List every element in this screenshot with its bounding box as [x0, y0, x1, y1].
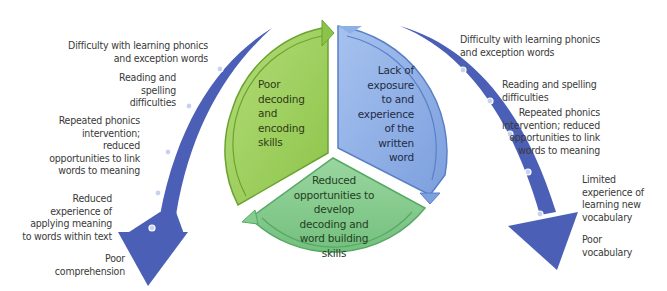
left-label-5: Poor comprehension	[55, 252, 125, 277]
right-arrow-head	[508, 212, 578, 270]
right-label-4: Limited experience of learning new vocab…	[582, 173, 644, 223]
left-label-2: Reading and spelling difficulties	[119, 71, 176, 109]
segment-text-green: Poor decoding and encoding skills	[258, 77, 305, 150]
left-label-1: Difficulty with learning phonics and exc…	[68, 39, 208, 64]
left-label-3: Repeated phonics intervention; reduced o…	[49, 114, 140, 177]
segment-text-blue: Lack of exposure to and experience of th…	[358, 63, 414, 165]
segment-text-bottom: Reduced opportunities to develop decodin…	[290, 173, 378, 260]
right-label-5: Poor vocabulary	[582, 233, 632, 258]
right-label-1: Difficulty with learning phonics and exc…	[460, 33, 600, 58]
left-arrow-head	[118, 232, 188, 286]
right-label-2: Reading and spelling difficulties	[502, 78, 597, 103]
right-label-3: Repeated phonics intervention; reduced o…	[502, 106, 600, 156]
left-label-4: Reduced experience of applying meaning t…	[22, 192, 112, 242]
